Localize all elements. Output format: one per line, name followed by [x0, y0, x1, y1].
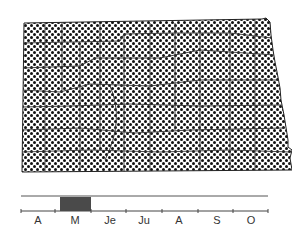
- range-map: [0, 0, 292, 190]
- month-label-may: M: [70, 214, 79, 226]
- highlight-may: [60, 197, 91, 211]
- month-label-april: A: [34, 214, 41, 226]
- month-label-august: A: [175, 214, 182, 226]
- month-label-october: O: [247, 214, 256, 226]
- phenology-bar: A M Je Ju A S O: [0, 190, 292, 231]
- month-label-june: Je: [104, 214, 116, 226]
- month-label-september: S: [213, 214, 220, 226]
- north-dakota-shape: [22, 18, 292, 172]
- month-label-july: Ju: [138, 214, 150, 226]
